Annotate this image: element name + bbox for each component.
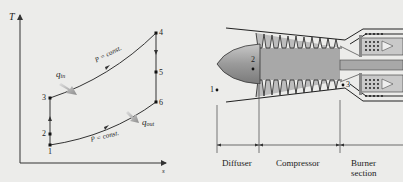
point-label-6: 6 <box>159 99 163 107</box>
station-3-dot <box>342 84 345 87</box>
point-label-1: 1 <box>48 148 52 156</box>
burner-flange-bottom <box>359 73 362 95</box>
point-label-3: 3 <box>42 94 46 102</box>
point-label-5: 5 <box>159 69 163 77</box>
section-label-burner: Burner section <box>351 158 403 178</box>
diffuser-connector-bottom <box>340 74 360 82</box>
state-point-4 <box>155 32 158 35</box>
station-label-3: 3 <box>346 81 350 89</box>
heat-out-label: qout <box>142 118 154 127</box>
state-point-2 <box>49 133 52 136</box>
direction-arrow-icon <box>154 50 158 55</box>
heat-out-subscript: out <box>147 121 155 127</box>
burner-flange-top <box>359 35 362 57</box>
state-point-5 <box>155 71 158 74</box>
shaft <box>340 60 403 70</box>
diffuser-connector-top <box>340 46 360 56</box>
station-label-2: 2 <box>251 56 255 64</box>
point-label-2: 2 <box>42 130 46 138</box>
turbojet-diagram <box>216 28 403 153</box>
compressor-blades-bottom <box>256 80 342 97</box>
y-axis-label: T <box>9 12 15 22</box>
station-2-dot <box>252 68 255 71</box>
section-label-diffuser: Diffuser <box>222 158 252 168</box>
x-axis-label: s <box>162 168 165 175</box>
station-1-dot <box>216 89 219 92</box>
direction-arrow-icon <box>105 65 110 70</box>
figure-canvas <box>0 0 403 182</box>
heat-in-label: qin <box>56 70 65 79</box>
heat-in-subscript: in <box>61 73 66 79</box>
heat-out-arrow-icon <box>126 111 139 123</box>
state-point-3 <box>49 97 52 100</box>
nose-cone <box>217 44 260 84</box>
section-label-compressor: Compressor <box>276 158 320 168</box>
compressor-body <box>260 48 340 80</box>
direction-arrow-icon <box>48 116 52 121</box>
state-point-6 <box>155 101 158 104</box>
point-label-4: 4 <box>159 29 163 37</box>
station-label-1: 1 <box>210 86 214 94</box>
